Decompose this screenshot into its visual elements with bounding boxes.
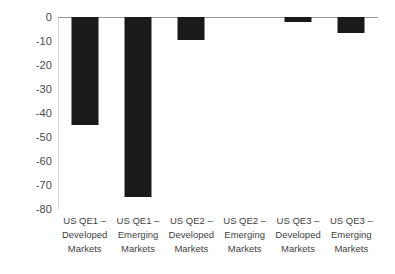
bar[interactable] bbox=[284, 17, 311, 22]
x-axis-category-label: US QE1 – Developed Markets bbox=[58, 214, 111, 256]
bar-chart: 0-10-20-30-40-50-60-70-80 US QE1 – Devel… bbox=[0, 0, 395, 274]
y-axis-tick-label: 0 bbox=[46, 12, 52, 23]
x-axis-category-label: US QE3 – Developed Markets bbox=[271, 214, 324, 256]
bar[interactable] bbox=[178, 17, 205, 40]
y-axis-tick-label: -10 bbox=[36, 36, 52, 47]
x-axis-labels: US QE1 – Developed MarketsUS QE1 – Emerg… bbox=[58, 214, 378, 274]
y-axis-tick-label: -80 bbox=[36, 204, 52, 215]
y-axis-tick-label: -30 bbox=[36, 84, 52, 95]
bar-slot bbox=[218, 17, 271, 209]
y-axis-tick-label: -60 bbox=[36, 156, 52, 167]
bar[interactable] bbox=[71, 17, 98, 125]
x-axis-category-label: US QE2 – Emerging Markets bbox=[218, 214, 271, 256]
y-axis-tick-label: -40 bbox=[36, 108, 52, 119]
bar-slot bbox=[165, 17, 218, 209]
y-axis: 0-10-20-30-40-50-60-70-80 bbox=[0, 0, 58, 274]
x-axis-category-label: US QE2 – Developed Markets bbox=[165, 214, 218, 256]
bar-slot bbox=[58, 17, 111, 209]
plot-area bbox=[58, 17, 378, 209]
y-axis-tick-label: -70 bbox=[36, 180, 52, 191]
x-axis-category-label: US QE1 – Emerging Markets bbox=[111, 214, 164, 256]
y-axis-tick-label: -20 bbox=[36, 60, 52, 71]
bar[interactable] bbox=[124, 17, 151, 197]
x-axis-category-label: US QE3 – Emerging Markets bbox=[325, 214, 378, 256]
bar[interactable] bbox=[338, 17, 365, 33]
bar-slot bbox=[111, 17, 164, 209]
bar-slot bbox=[271, 17, 324, 209]
bar-slot bbox=[325, 17, 378, 209]
y-axis-tick-label: -50 bbox=[36, 132, 52, 143]
